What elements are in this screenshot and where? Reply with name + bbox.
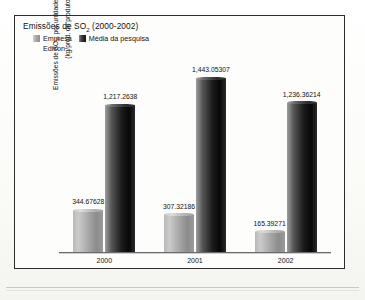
- bar-2001-empresa-edison[interactable]: 307.32186: [164, 215, 194, 252]
- bar-groups: 344.67628 1,217.2638 307.32: [59, 61, 331, 252]
- x-tick-label-2002: 2002: [254, 257, 318, 264]
- bar-value-2001-media-da-pesquisa: 1,443.05307: [192, 66, 230, 73]
- chart-title: Emissões de SO2 (2000-2002): [23, 21, 138, 33]
- y-axis-label-line1: Emissões de SO2, por unidade de produto: [52, 0, 59, 90]
- chart-title-suffix: (2000-2002): [90, 21, 139, 31]
- x-axis-tick-labels: 2000 2001 2002: [59, 257, 331, 264]
- bar-top-ellipse: [105, 104, 135, 107]
- bar-value-2000-empresa-edison: 344.67628: [72, 198, 104, 205]
- bar-value-2002-media-da-pesquisa: 1,236.36214: [283, 91, 321, 98]
- bar-2000-media-da-pesquisa[interactable]: 1,217.2638: [105, 105, 135, 252]
- bar-top-ellipse: [196, 77, 226, 80]
- bar-value-2000-media-da-pesquisa: 1,217.2638: [103, 93, 137, 100]
- bar-group-2000: 344.67628 1,217.2638: [73, 61, 135, 252]
- bar-wrap-2000-media-da-pesquisa: 1,217.2638: [105, 61, 135, 252]
- bar-2002-media-da-pesquisa[interactable]: 1,236.36214: [287, 103, 317, 252]
- bar-wrap-2002-empresa-edison: 165.39271: [255, 61, 285, 252]
- x-axis-line: [59, 252, 331, 253]
- bar-group-2002: 165.39271 1,236.36214: [255, 61, 317, 252]
- bar-top-ellipse: [73, 209, 103, 212]
- bar-group-2001: 307.32186 1,443.05307: [164, 61, 226, 252]
- bar-value-2002-empresa-edison: 165.39271: [254, 220, 286, 227]
- legend-swatch-icon-empresa-edison: [33, 35, 40, 42]
- bar-wrap-2002-media-da-pesquisa: 1,236.36214: [287, 61, 317, 252]
- y-axis-label-prefix: Emissões de SO: [52, 41, 59, 90]
- scanned-page: Emissões de SO2 (2000-2002) EmpresaEdiso…: [0, 0, 365, 300]
- bar-value-2001-empresa-edison: 307.32186: [163, 203, 195, 210]
- page-edge-line-upper: [6, 287, 359, 288]
- page-edge-line-lower: [6, 290, 359, 291]
- x-tick-label-2001: 2001: [163, 257, 227, 264]
- plot-area: Emissões de SO2, por unidade de produto …: [59, 62, 331, 253]
- x-tick-label-2000: 2000: [72, 257, 136, 264]
- bar-top-ellipse: [287, 101, 317, 104]
- bar-wrap-2001-empresa-edison: 307.32186: [164, 61, 194, 252]
- chart-figure-frame: Emissões de SO2 (2000-2002) EmpresaEdiso…: [14, 15, 345, 269]
- legend-item-media-da-pesquisa: Média da pesquisa: [79, 34, 149, 44]
- bar-top-ellipse: [164, 213, 194, 216]
- bar-wrap-2000-empresa-edison: 344.67628: [73, 61, 103, 252]
- bar-top-ellipse: [255, 230, 285, 233]
- bar-wrap-2001-media-da-pesquisa: 1,443.05307: [196, 61, 226, 252]
- legend-swatch-icon-media-da-pesquisa: [79, 35, 86, 42]
- bar-2000-empresa-edison[interactable]: 344.67628: [73, 210, 103, 252]
- bar-2002-empresa-edison[interactable]: 165.39271: [255, 232, 285, 252]
- legend-label-media-da-pesquisa: Média da pesquisa: [89, 34, 149, 44]
- y-axis-label-suffix: , por unidade de produto: [52, 0, 59, 38]
- y-axis-label-subscript: 2: [55, 38, 61, 41]
- bar-2001-media-da-pesquisa[interactable]: 1,443.05307: [196, 78, 226, 252]
